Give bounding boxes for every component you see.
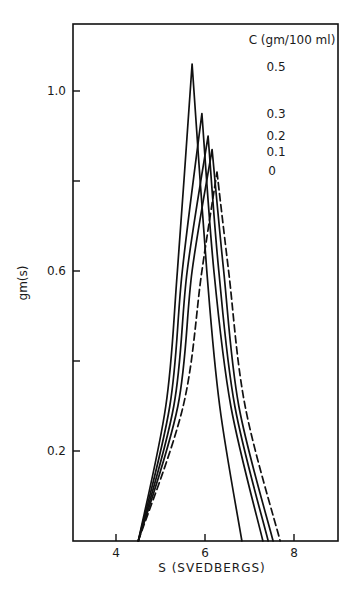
y-axis-label: gm(s) bbox=[16, 266, 30, 301]
x-tick-label: 6 bbox=[201, 546, 209, 560]
legend-entry-0.1: 0.1 bbox=[266, 145, 285, 159]
y-tick-label: 1.0 bbox=[47, 84, 66, 98]
legend: C (gm/100 ml) 0.5 0.3 0.2 0.1 0 bbox=[249, 33, 336, 178]
legend-entry-0.2: 0.2 bbox=[266, 129, 285, 143]
plot-frame bbox=[73, 24, 338, 541]
y-tick-label: 0.6 bbox=[47, 264, 66, 278]
legend-entry-0.5: 0.5 bbox=[266, 60, 285, 74]
x-tick-label: 8 bbox=[290, 546, 298, 560]
y-axis-ticks: 0.20.61.0 bbox=[47, 84, 80, 458]
legend-title: C (gm/100 ml) bbox=[249, 33, 336, 47]
sedimentation-chart: 0.20.61.0 468 C (gm/100 ml) 0.5 0.3 0.2 … bbox=[0, 0, 357, 589]
data-series bbox=[138, 64, 280, 541]
legend-entry-0.3: 0.3 bbox=[266, 107, 285, 121]
x-tick-label: 4 bbox=[112, 546, 120, 560]
x-axis-label: S (SVEDBERGS) bbox=[158, 561, 266, 575]
legend-entry-0: 0 bbox=[268, 164, 276, 178]
y-tick-label: 0.2 bbox=[47, 444, 66, 458]
series-line-c-0 bbox=[138, 172, 280, 541]
